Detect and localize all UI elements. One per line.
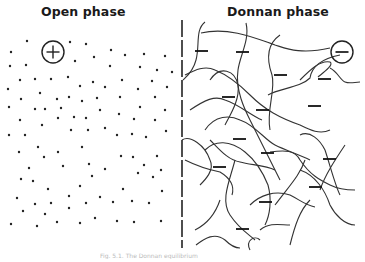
diagram-canvas: [0, 0, 365, 262]
mobile-ion-dots: [7, 40, 173, 227]
fixed-negative-charges: [195, 51, 336, 229]
circled-minus-icon: [331, 41, 353, 63]
figure-caption: Fig. 5.1. The Donnan equilibrium: [100, 252, 300, 259]
circled-plus-icon: [42, 41, 64, 63]
polymer-chains: [182, 22, 360, 250]
